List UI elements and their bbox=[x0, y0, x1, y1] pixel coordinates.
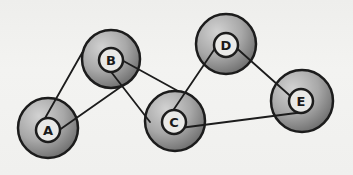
node-e: E bbox=[289, 89, 313, 113]
node-b-label: B bbox=[106, 53, 116, 68]
diagram-canvas: A B C D E bbox=[0, 0, 353, 175]
node-a: A bbox=[36, 118, 60, 142]
node-c: C bbox=[162, 110, 186, 134]
node-c-label: C bbox=[169, 115, 179, 130]
node-a-label: A bbox=[43, 123, 53, 138]
node-d-label: D bbox=[221, 38, 232, 53]
node-d: D bbox=[214, 33, 238, 57]
node-discs bbox=[18, 14, 333, 158]
graph-diagram: A B C D E bbox=[0, 0, 353, 175]
node-e-label: E bbox=[297, 94, 306, 109]
node-b: B bbox=[99, 48, 123, 72]
